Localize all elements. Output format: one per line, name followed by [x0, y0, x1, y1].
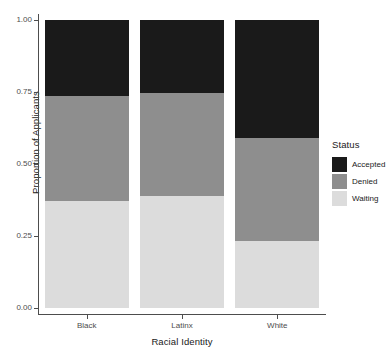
legend-item-accepted[interactable]: Accepted [332, 156, 387, 173]
y-axis-tick-mark [34, 92, 38, 93]
legend-item-denied[interactable]: Denied [332, 173, 387, 190]
y-axis-tick-mark [34, 20, 38, 21]
bar-segment-denied[interactable] [140, 93, 224, 196]
bar-segment-accepted[interactable] [45, 20, 129, 96]
legend-items: AcceptedDeniedWaiting [332, 156, 387, 207]
x-axis-tick-label: White [237, 321, 317, 331]
x-axis-tick-mark [182, 315, 183, 319]
legend-title: Status [332, 139, 387, 150]
plot-panel [39, 20, 325, 308]
y-axis-tick-mark [34, 164, 38, 165]
bar-segment-waiting[interactable] [140, 196, 224, 308]
x-axis-tick-mark [87, 315, 88, 319]
bar-segment-denied[interactable] [45, 96, 129, 201]
y-axis-tick-mark [34, 308, 38, 309]
bar-segment-waiting[interactable] [45, 201, 129, 308]
legend-label: Waiting [352, 194, 378, 203]
bar-group[interactable] [140, 20, 224, 308]
legend-item-waiting[interactable]: Waiting [332, 190, 387, 207]
y-axis-tick-mark [34, 236, 38, 237]
legend: Status AcceptedDeniedWaiting [332, 139, 387, 207]
x-axis-tick-marks [39, 315, 325, 319]
bar-segment-waiting[interactable] [235, 241, 319, 308]
y-axis-tick-label: 0.00 [6, 304, 32, 312]
bar-segment-denied[interactable] [235, 138, 319, 241]
y-axis-tick-label: 0.50 [6, 160, 32, 168]
x-axis-tick-label: Latinx [142, 321, 222, 331]
y-axis-tick-label: 0.25 [6, 232, 32, 240]
x-axis-title: Racial Identity [39, 336, 325, 347]
y-axis-tick-label: 1.00 [6, 16, 32, 24]
bar-segment-accepted[interactable] [140, 20, 224, 93]
legend-label: Accepted [352, 160, 385, 169]
bar-group[interactable] [45, 20, 129, 308]
x-axis-tick-label: Black [47, 321, 127, 331]
legend-label: Denied [352, 177, 377, 186]
bar-segment-accepted[interactable] [235, 20, 319, 138]
legend-swatch-accepted [332, 157, 347, 172]
legend-swatch-waiting [332, 191, 347, 206]
bar-group[interactable] [235, 20, 319, 308]
x-axis-tick-mark [277, 315, 278, 319]
y-axis-tick-label: 0.75 [6, 88, 32, 96]
x-axis-tick-labels: BlackLatinxWhite [39, 321, 325, 333]
chart-figure: Proportion of Applicants 0.000.250.500.7… [0, 0, 387, 354]
y-axis-tick-labels: 0.000.250.500.751.00 [6, 0, 32, 354]
legend-swatch-denied [332, 174, 347, 189]
